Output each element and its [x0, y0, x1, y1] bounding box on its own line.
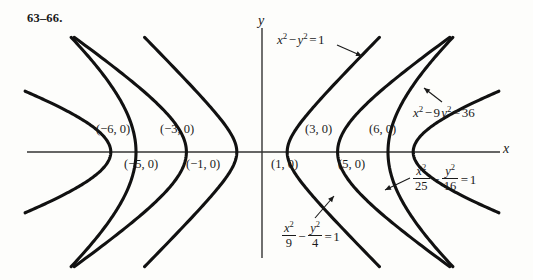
- equation-label-x2-minus-9y2-eq-36: x2−9 y2=36: [413, 106, 475, 119]
- equation-label-x2-minus-y2-eq-1: x2−y2=1: [277, 33, 325, 46]
- vertex-label-neg3: (−3, 0): [160, 123, 194, 136]
- x-axis-label: x: [503, 142, 509, 156]
- y-axis-label: y: [258, 14, 264, 28]
- vertex-label-pos1: (1, 0): [271, 158, 298, 171]
- hyperbola-plot: [0, 0, 533, 280]
- vertex-label-pos3: (3, 0): [305, 123, 332, 136]
- hyperbolas-figure: 63–66. y x (−6, 0) (−3, 0) (−5, 0) (−1, …: [0, 0, 533, 280]
- vertex-label-pos6: (6, 0): [369, 123, 396, 136]
- problem-number-label: 63–66.: [27, 12, 63, 25]
- vertex-label-pos5: (5, 0): [338, 158, 365, 171]
- vertex-label-neg6: (−6, 0): [96, 123, 130, 136]
- equation-label-x2-25-minus-y2-16-eq-1: x225−y216=1: [412, 165, 476, 193]
- vertex-label-neg1: (−1, 0): [186, 158, 220, 171]
- vertex-label-neg5: (−5, 0): [124, 158, 158, 171]
- equation-label-x2-9-minus-y2-4-eq-1: x29−y24=1: [281, 222, 340, 250]
